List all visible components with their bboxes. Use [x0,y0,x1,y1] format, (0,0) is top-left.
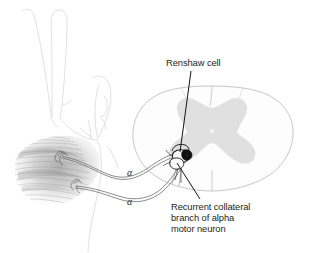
renshaw-cell-figure: Renshaw cell Recurrent collateral branch… [0,0,312,253]
label-alpha-upper: α [127,167,132,178]
leader-line-renshaw-cell [180,71,191,152]
label-alpha-lower: α [127,196,132,207]
label-renshaw-cell: Renshaw cell [166,57,221,68]
leader-line-recurrent-collateral [177,163,200,199]
leader-line-layer [0,0,312,253]
label-recurrent-collateral: Recurrent collateral branch of alpha mot… [171,201,250,235]
